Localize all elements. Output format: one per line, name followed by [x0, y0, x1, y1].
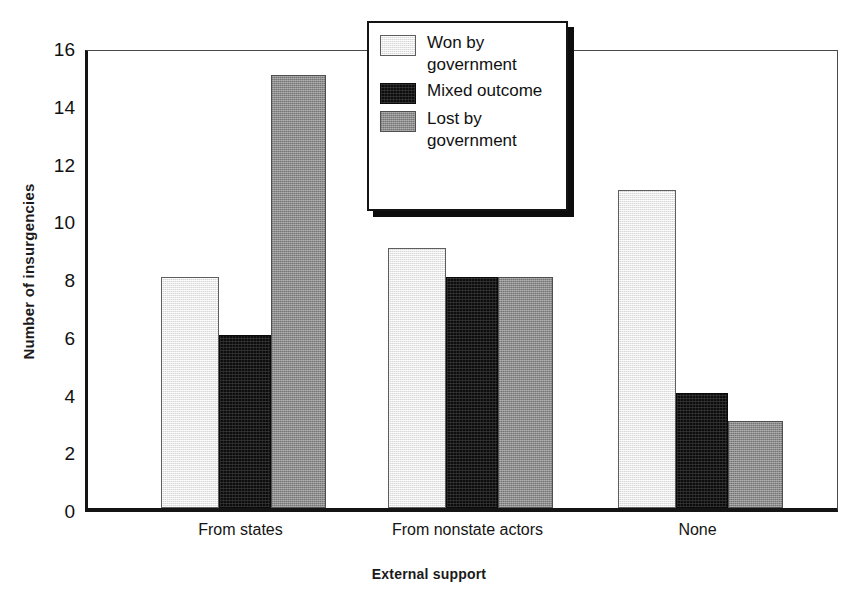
legend-swatch-mixed-outcome: [380, 83, 416, 104]
bar-chart-figure: Number of insurgencies External support …: [0, 0, 858, 601]
y-axis-tick-label: 0: [11, 502, 75, 521]
bar: [219, 335, 271, 508]
y-axis-tick-label: 8: [11, 271, 75, 290]
legend-item: Lost by government: [380, 108, 558, 152]
chart-legend: Won by government Mixed outcome Lost by …: [367, 21, 568, 211]
bar: [618, 190, 676, 508]
y-axis-tick-label: 14: [11, 98, 75, 117]
y-axis-tick-labels: 0246810121416: [0, 0, 75, 601]
bar: [388, 248, 446, 508]
y-axis-tick-label: 10: [11, 213, 75, 232]
legend-swatch-lost-by-government: [380, 111, 416, 132]
y-axis-tick-label: 6: [11, 329, 75, 348]
y-axis-tick-label: 12: [11, 156, 75, 175]
legend-label-won-by-government: Won by government: [427, 32, 558, 76]
x-axis-category-label: None: [555, 521, 840, 539]
legend-item: Won by government: [380, 32, 558, 76]
legend-label-mixed-outcome: Mixed outcome: [427, 80, 542, 102]
x-axis-title: External support: [0, 566, 858, 582]
legend-swatch-won-by-government: [380, 35, 416, 56]
bar: [446, 277, 498, 508]
legend-item: Mixed outcome: [380, 80, 558, 104]
y-axis-tick-label: 2: [11, 444, 75, 463]
legend-label-lost-by-government: Lost by government: [427, 108, 558, 152]
y-axis-tick-label: 16: [11, 40, 75, 59]
bar: [498, 277, 553, 508]
bar: [271, 75, 326, 508]
y-axis-tick-label: 4: [11, 387, 75, 406]
bar: [728, 421, 783, 508]
bar: [676, 393, 728, 509]
bar: [161, 277, 219, 508]
